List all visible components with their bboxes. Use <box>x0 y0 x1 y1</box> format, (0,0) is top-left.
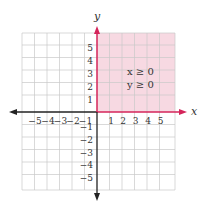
inequality-x: x ≥ 0 <box>127 66 154 77</box>
inequality-y: y ≥ 0 <box>126 79 154 90</box>
y-axis-label: y <box>93 10 101 23</box>
x-tick-label: −2 <box>66 116 79 126</box>
x-tick-label: −5 <box>28 116 42 126</box>
y-tick-label: −4 <box>80 160 94 170</box>
y-tick-label: −2 <box>80 135 93 145</box>
y-tick-label: 1 <box>87 95 93 105</box>
y-tick-label: −1 <box>80 122 93 132</box>
x-axis-left-arrow-icon <box>9 109 17 115</box>
x-tick-label: 4 <box>145 116 151 126</box>
y-tick-label: 4 <box>87 56 93 66</box>
x-tick-label: 3 <box>133 116 139 126</box>
x-tick-label: −3 <box>54 116 68 126</box>
coordinate-graph: y x −5 −4 −3 −2 −1 1 2 3 4 5 5 4 3 2 1 −… <box>0 0 201 212</box>
x-tick-label: −4 <box>41 116 55 126</box>
y-tick-label: 3 <box>87 69 93 79</box>
x-axis-right-arrow-icon <box>179 109 187 115</box>
y-tick-label: 2 <box>87 82 93 92</box>
y-tick-label: 5 <box>87 43 93 53</box>
x-tick-label: 5 <box>158 116 164 126</box>
x-axis-label: x <box>191 105 198 118</box>
x-tick-label: 1 <box>108 116 114 126</box>
y-axis-up-arrow-icon <box>94 26 100 34</box>
y-tick-label: −5 <box>80 173 94 183</box>
y-tick-label: −3 <box>80 148 94 158</box>
y-axis-down-arrow-icon <box>94 193 100 201</box>
x-tick-label: 2 <box>120 116 126 126</box>
